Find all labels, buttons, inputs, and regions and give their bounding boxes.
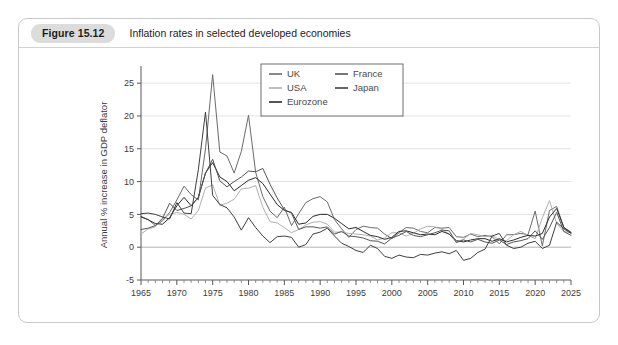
y-tick-label: 0 [129,242,134,252]
y-tick-label: -5 [126,275,134,285]
x-tick-label: 2000 [382,288,402,298]
legend-label-usa: USA [287,82,307,93]
x-tick-label: 2020 [525,288,545,298]
series-line-usa [141,185,571,242]
x-tick-label: 1995 [346,288,366,298]
y-tick-label: 15 [124,144,134,154]
y-axis: -50510152025 [124,66,141,285]
x-tick-label: 2015 [489,288,509,298]
y-tick-label: 10 [124,177,134,187]
series-line-japan [141,112,571,260]
x-tick-label: 1975 [203,288,223,298]
y-tick-label: 20 [124,111,134,121]
x-tick-label: 1970 [167,288,187,298]
x-tick-label: 1965 [131,288,151,298]
y-tick-label: 5 [129,210,134,220]
x-tick-label: 2005 [418,288,438,298]
figure-panel: Figure 15.12 Inflation rates in selected… [18,18,600,323]
x-tick-label: 1990 [310,288,330,298]
x-tick-label: 2025 [561,288,581,298]
figure-caption: Inflation rates in selected developed ec… [129,27,350,39]
series-line-france [141,159,571,244]
x-tick-label: 1985 [274,288,294,298]
legend-label-eurozone: Eurozone [287,96,328,107]
figure-header: Figure 15.12 Inflation rates in selected… [19,19,599,48]
y-axis-title: Annual % increase in GDP deflator [98,102,109,249]
chart-plot-area: -50510152025 196519701975198019851990199… [19,48,599,322]
legend-label-uk: UK [287,68,301,79]
y-tick-label: 25 [124,78,134,88]
inflation-line-chart: -50510152025 196519701975198019851990199… [19,48,599,322]
x-axis: 1965197019751980198519901995200020052010… [131,280,581,298]
y-axis-label: Annual % increase in GDP deflator [98,102,109,249]
figure-number-badge: Figure 15.12 [31,24,115,43]
x-tick-label: 1980 [238,288,258,298]
chart-legend: UKUSAEurozoneFranceJapan [261,64,403,116]
legend-label-japan: Japan [353,82,379,93]
x-tick-label: 2010 [453,288,473,298]
legend-label-france: France [353,68,383,79]
